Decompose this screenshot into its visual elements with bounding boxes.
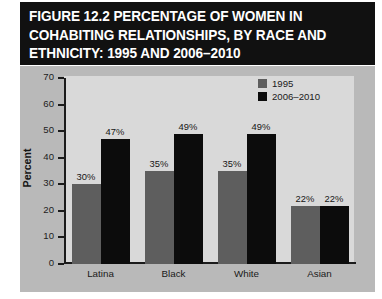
figure-title-line-2: COHABITING RELATIONSHIPS, BY RACE AND — [29, 26, 353, 45]
y-tick-label: 70 — [28, 72, 54, 82]
figure-container: FIGURE 12.2 PERCENTAGE OF WOMEN IN COHAB… — [0, 0, 382, 299]
y-tick-label: 50 — [28, 125, 54, 135]
bars-layer: 30%47%35%49%35%49%22%22% — [64, 76, 356, 264]
y-tick-label: 10 — [28, 231, 54, 241]
x-axis-label-latina: Latina — [65, 268, 137, 279]
bar-white-2006-2010[interactable] — [247, 134, 276, 264]
figure-title-line-1: FIGURE 12.2 PERCENTAGE OF WOMEN IN — [29, 7, 353, 26]
bar-value-label: 49% — [241, 122, 281, 132]
x-axis-label-white: White — [211, 268, 283, 279]
bar-group: 35%49% — [145, 78, 203, 264]
y-axis-title: Percent — [21, 138, 33, 198]
x-axis-label-black: Black — [138, 268, 210, 279]
bar-latina-1995[interactable] — [72, 184, 101, 264]
bar-asian-2006-2010[interactable] — [320, 206, 349, 264]
bar-value-label: 22% — [314, 194, 354, 204]
bar-group: 35%49% — [218, 78, 276, 264]
bar-value-label: 49% — [168, 122, 208, 132]
chart-panel: 706050403020100 Percent 1995 2006–2010 3… — [20, 66, 375, 292]
bar-white-1995[interactable] — [218, 171, 247, 264]
bar-asian-1995[interactable] — [291, 206, 320, 264]
y-tick-label: 20 — [28, 205, 54, 215]
bar-latina-2006-2010[interactable] — [101, 139, 130, 264]
y-tick-label: 60 — [28, 99, 54, 109]
x-axis-labels: LatinaBlackWhiteAsian — [64, 266, 356, 286]
x-axis-label-asian: Asian — [284, 268, 356, 279]
figure-title-bar: FIGURE 12.2 PERCENTAGE OF WOMEN IN COHAB… — [20, 2, 375, 65]
bar-black-2006-2010[interactable] — [174, 134, 203, 264]
bar-value-label: 47% — [95, 127, 135, 137]
bar-black-1995[interactable] — [145, 171, 174, 264]
y-tick-label: 0 — [28, 258, 54, 268]
bar-group: 22%22% — [291, 78, 349, 264]
bar-group: 30%47% — [72, 78, 130, 264]
figure-title-line-3: ETHNICITY: 1995 AND 2006–2010 — [29, 44, 353, 63]
